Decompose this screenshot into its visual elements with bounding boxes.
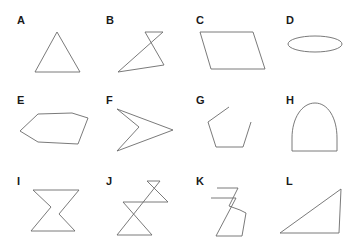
panel-label-h: H [286, 95, 294, 106]
panel-label-e: E [17, 95, 24, 106]
shape-l-right-triangle [280, 189, 341, 233]
shape-b-self-intersecting [118, 32, 164, 72]
shape-g-open-pentagon [208, 107, 251, 147]
shape-c-parallelogram [200, 32, 265, 69]
shape-a-triangle [35, 32, 80, 72]
shape-e-hexagon [20, 113, 88, 144]
panel-label-d: D [286, 15, 294, 26]
panel-label-l: L [286, 176, 293, 187]
panel-label-i: I [17, 176, 20, 187]
panel-label-j: J [106, 176, 112, 187]
shape-h-arch [292, 103, 337, 151]
shape-i-z-shape [31, 190, 79, 231]
shape-j-hourglass [117, 181, 168, 235]
shape-k-zigzag [211, 188, 246, 236]
panel-label-f: F [106, 95, 113, 106]
panel-label-b: B [106, 15, 114, 26]
panel-label-g: G [196, 95, 205, 106]
shapes-svg [0, 0, 354, 247]
shapes-figure: A B C D E F G H I J K L [0, 0, 354, 247]
shape-d-ellipse [288, 36, 342, 52]
shape-f-arrowhead [117, 109, 173, 151]
panel-label-a: A [17, 15, 25, 26]
panel-label-k: K [196, 176, 204, 187]
panel-label-c: C [196, 15, 204, 26]
